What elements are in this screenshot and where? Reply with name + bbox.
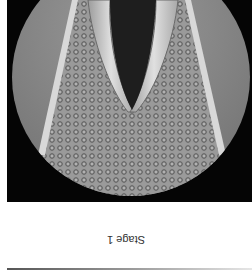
vocal-cords-illustration [7, 0, 252, 202]
figure-caption: Stage 1 [0, 234, 252, 246]
divider-line [7, 268, 252, 270]
illustration-panel [7, 0, 252, 202]
